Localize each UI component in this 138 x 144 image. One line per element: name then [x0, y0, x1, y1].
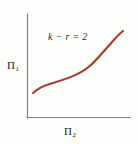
y-axis-label: Π1 — [7, 60, 19, 71]
figure-panel: Π1 Π2 k − r = 2 — [0, 0, 138, 144]
x-axis-label-subscript: 2 — [72, 131, 76, 139]
x-axis-label: Π2 — [64, 126, 76, 137]
plot-canvas — [0, 0, 138, 144]
x-axis-label-symbol: Π — [64, 125, 72, 137]
y-axis-label-subscript: 1 — [15, 65, 19, 73]
curve-annotation-label: k − r = 2 — [48, 31, 88, 42]
y-axis-label-symbol: Π — [7, 59, 15, 71]
